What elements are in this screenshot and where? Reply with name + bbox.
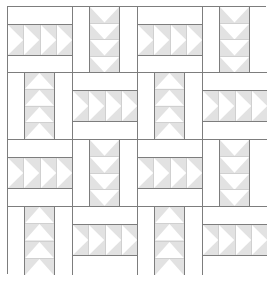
goose-right-icon	[251, 91, 267, 121]
quilt-block-horizontal	[73, 207, 138, 275]
goose-down-icon	[90, 140, 119, 156]
white-strip	[8, 188, 72, 206]
goose-down-icon	[90, 39, 119, 56]
quilt-block-vertical	[8, 207, 73, 275]
goose-up-icon	[25, 89, 54, 106]
white-strip	[138, 207, 155, 275]
white-strip	[203, 255, 267, 275]
goose-down-icon	[220, 140, 249, 156]
white-strip	[203, 73, 267, 91]
flying-geese-strip	[73, 91, 137, 121]
white-strip	[203, 207, 267, 225]
quilt-block-vertical	[203, 7, 267, 73]
goose-right-icon	[251, 225, 267, 255]
flying-geese-strip	[25, 73, 54, 139]
flying-geese-strip	[138, 158, 202, 188]
goose-right-icon	[73, 91, 88, 121]
goose-down-icon	[220, 173, 249, 190]
goose-down-icon	[220, 39, 249, 56]
goose-down-icon	[90, 173, 119, 190]
goose-right-icon	[88, 91, 104, 121]
goose-down-icon	[220, 7, 249, 23]
goose-right-icon	[138, 158, 153, 188]
goose-right-icon	[153, 158, 169, 188]
quilt-block-horizontal	[203, 207, 267, 275]
white-strip	[184, 73, 202, 139]
goose-right-icon	[88, 225, 104, 255]
goose-right-icon	[170, 25, 186, 55]
quilt-block-horizontal	[138, 7, 203, 73]
goose-right-icon	[40, 158, 56, 188]
goose-right-icon	[23, 158, 39, 188]
goose-right-icon	[153, 25, 169, 55]
quilt-diagram	[7, 6, 266, 274]
goose-right-icon	[8, 158, 23, 188]
white-strip	[184, 207, 202, 275]
quilt-block-vertical	[138, 207, 203, 275]
quilt-block-horizontal	[203, 73, 267, 140]
quilt-block-vertical	[203, 140, 267, 207]
flying-geese-strip	[155, 207, 184, 275]
flying-geese-strip	[8, 25, 72, 55]
goose-right-icon	[121, 91, 137, 121]
goose-up-icon	[25, 241, 54, 258]
white-strip	[203, 7, 220, 72]
goose-right-icon	[235, 225, 251, 255]
flying-geese-strip	[155, 73, 184, 139]
white-strip	[8, 73, 25, 139]
white-strip	[138, 55, 202, 72]
goose-right-icon	[218, 91, 234, 121]
goose-up-icon	[155, 73, 184, 89]
goose-right-icon	[73, 225, 88, 255]
white-strip	[54, 73, 72, 139]
white-strip	[119, 140, 137, 206]
goose-up-icon	[155, 122, 184, 139]
goose-up-icon	[155, 89, 184, 106]
goose-right-icon	[23, 25, 39, 55]
goose-down-icon	[90, 56, 119, 73]
white-strip	[138, 7, 202, 25]
goose-up-icon	[155, 223, 184, 240]
white-strip	[8, 55, 72, 72]
goose-down-icon	[220, 56, 249, 73]
goose-right-icon	[218, 225, 234, 255]
white-strip	[249, 140, 267, 206]
goose-up-icon	[25, 223, 54, 240]
white-strip	[8, 140, 72, 158]
quilt-block-vertical	[73, 7, 138, 73]
goose-down-icon	[220, 156, 249, 173]
flying-geese-strip	[203, 225, 267, 255]
flying-geese-strip	[203, 91, 267, 121]
white-strip	[73, 255, 137, 275]
goose-right-icon	[56, 158, 72, 188]
goose-down-icon	[220, 189, 249, 206]
goose-up-icon	[25, 122, 54, 139]
goose-right-icon	[121, 225, 137, 255]
goose-right-icon	[105, 91, 121, 121]
goose-up-icon	[25, 207, 54, 223]
goose-right-icon	[56, 25, 72, 55]
white-strip	[73, 140, 90, 206]
white-strip	[8, 7, 72, 25]
goose-down-icon	[90, 156, 119, 173]
flying-geese-strip	[220, 7, 249, 72]
goose-up-icon	[25, 73, 54, 89]
quilt-block-vertical	[8, 73, 73, 140]
white-strip	[138, 140, 202, 158]
goose-down-icon	[90, 23, 119, 40]
goose-up-icon	[155, 258, 184, 275]
quilt-block-horizontal	[138, 140, 203, 207]
goose-right-icon	[105, 225, 121, 255]
goose-down-icon	[90, 189, 119, 206]
flying-geese-strip	[90, 7, 119, 72]
goose-right-icon	[170, 158, 186, 188]
goose-down-icon	[90, 7, 119, 23]
goose-up-icon	[155, 106, 184, 123]
goose-right-icon	[235, 91, 251, 121]
goose-up-icon	[155, 241, 184, 258]
flying-geese-strip	[73, 225, 137, 255]
white-strip	[138, 188, 202, 206]
goose-right-icon	[138, 25, 153, 55]
flying-geese-strip	[220, 140, 249, 206]
quilt-block-horizontal	[8, 140, 73, 207]
